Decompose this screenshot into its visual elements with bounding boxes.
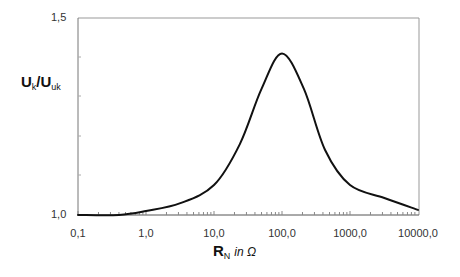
x-tick-label: 1,0 [138, 227, 153, 239]
x-axis-label: RNin Ω [213, 242, 256, 261]
x-tick-label: 10000,0 [398, 227, 438, 239]
chart-plot [0, 0, 460, 277]
x-tick-label: 1000,0 [333, 227, 367, 239]
x-tick-label: 100,0 [268, 227, 296, 239]
x-label-sub-n: N [224, 251, 231, 261]
x-label-r: R [213, 242, 224, 259]
x-tick-label: 10,0 [203, 227, 224, 239]
x-label-unit: in Ω [234, 245, 256, 259]
x-tick-label: 0,1 [70, 227, 85, 239]
data-curve [78, 53, 418, 215]
plot-frame [78, 18, 419, 215]
